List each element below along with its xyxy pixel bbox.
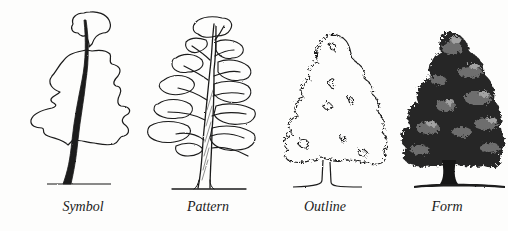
label-pattern: Pattern (187, 199, 229, 215)
label-outline: Outline (304, 199, 346, 215)
pattern-tree-icon (148, 17, 256, 189)
label-form: Form (431, 199, 462, 215)
form-tree-icon (401, 32, 504, 168)
symbol-trunk-icon (63, 20, 88, 184)
tree-illustrations (0, 0, 508, 231)
label-symbol: Symbol (62, 199, 103, 215)
tree-drawing-styles-figure: Symbol Pattern Outline Form (0, 0, 508, 231)
outline-trunk-icon (293, 160, 362, 187)
outline-tree-icon (285, 34, 387, 164)
